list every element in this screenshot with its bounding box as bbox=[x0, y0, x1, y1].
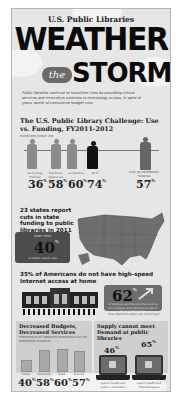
bar-value: 58% bbox=[36, 377, 54, 388]
bar-value: 40% bbox=[18, 377, 36, 388]
wifi-arrow-icon bbox=[138, 288, 154, 300]
supply-caption: report insufficient Internet speed bbox=[132, 382, 166, 389]
budget-bar bbox=[74, 351, 85, 372]
budget-bar bbox=[21, 360, 32, 372]
cursor-icon bbox=[109, 361, 116, 368]
budgets-title: Decreased Budgets, Decreased Services bbox=[19, 323, 91, 335]
budgets-subtitle: PERCENTAGE OF LIBRARIES REPORTING FLAT O… bbox=[19, 336, 91, 343]
stat-value: 74% bbox=[87, 178, 106, 191]
person-icon bbox=[87, 146, 98, 169]
bar-label: Rural bbox=[54, 373, 70, 377]
challenge-title: The U.S. Public Library Challenge: Use v… bbox=[20, 117, 165, 133]
title-the-badge: the bbox=[42, 67, 72, 83]
title-storm: STORM bbox=[72, 59, 171, 87]
states-title: 23 states report cuts in state funding t… bbox=[20, 207, 82, 233]
bar-label: Urban bbox=[18, 373, 34, 377]
states-box-label: MORE THAN bbox=[15, 235, 70, 239]
person-icon bbox=[51, 144, 61, 169]
supply-value: 65% bbox=[141, 339, 156, 349]
states-box-caption: of states report cuts bbox=[15, 257, 70, 261]
stat-label: Computers bbox=[67, 172, 85, 176]
us-map-icon bbox=[74, 209, 166, 267]
library-building-icon bbox=[20, 286, 100, 316]
funding-value: 57% bbox=[136, 178, 155, 191]
stat-value: 36% bbox=[28, 178, 47, 191]
laptop-base-icon bbox=[132, 375, 166, 380]
funding-label: FLAT OR DECREASED FUNDING bbox=[124, 171, 164, 178]
challenge-subtitle: INCREASED PUBLIC USE bbox=[20, 135, 54, 139]
bar-label: Suburban bbox=[36, 373, 52, 377]
bar-value: 57% bbox=[72, 377, 90, 388]
stat-value: 58% bbox=[48, 178, 67, 191]
internet-stat-box: 62% of libraries are the only free sourc… bbox=[104, 285, 162, 311]
cursor-icon bbox=[145, 361, 152, 368]
states-box-value: 40% bbox=[34, 239, 59, 257]
bar-label: Overall bbox=[71, 373, 87, 377]
budget-bar bbox=[39, 350, 50, 372]
title-weather: WEATHER bbox=[12, 23, 170, 55]
intro-text: Public libraries continue to transform l… bbox=[22, 91, 142, 106]
budget-bar bbox=[57, 349, 68, 372]
stat-value: 60% bbox=[68, 178, 87, 191]
person-icon bbox=[140, 142, 151, 170]
stat-label: Wi-Fi bbox=[86, 172, 104, 176]
laptop-base-icon bbox=[96, 375, 130, 380]
infographic: U.S. Public Libraries WEATHER the STORM … bbox=[11, 8, 171, 392]
states-stat-box: MORE THAN 40% of states report cuts bbox=[15, 232, 70, 263]
internet-source: Pew Internet & American Life Project bbox=[108, 313, 160, 317]
internet-title: 35% of Americans do not have high-speed … bbox=[20, 271, 165, 284]
person-icon bbox=[67, 144, 77, 169]
person-icon bbox=[27, 144, 37, 169]
supply-value: 46% bbox=[104, 345, 119, 355]
bar-value: 60% bbox=[54, 377, 72, 388]
supply-caption: report insufficient public computers bbox=[96, 382, 130, 389]
